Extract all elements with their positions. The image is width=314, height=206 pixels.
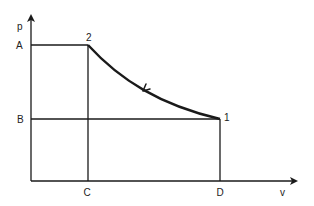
pv-diagram: p v A B C D 2 1	[0, 0, 314, 206]
y-axis-label: p	[17, 21, 23, 32]
process-curve	[88, 45, 220, 119]
point-2-label: 2	[86, 32, 92, 43]
y-tick-b: B	[17, 114, 24, 125]
y-tick-a: A	[16, 40, 23, 51]
direction-arrow-icon	[143, 84, 150, 91]
x-axis-label: v	[280, 187, 285, 198]
point-1-label: 1	[224, 112, 230, 123]
x-tick-c: C	[83, 187, 90, 198]
x-tick-d: D	[216, 187, 223, 198]
